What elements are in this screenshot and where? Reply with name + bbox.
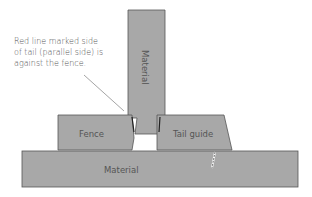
annotation-line-3: against the fence.	[14, 58, 124, 69]
bottom-material-label: Material	[104, 165, 139, 175]
annotation-line-1: Red line marked side	[14, 36, 124, 47]
top-material-label: Material	[140, 50, 150, 85]
fence-label: Fence	[79, 129, 104, 139]
annotation-line-2: of tail (parallel side) is	[14, 47, 124, 58]
dovetail-jig-diagram: Material Fence Tail guide Material	[0, 0, 312, 197]
bottom-material-piece: Material	[22, 151, 298, 187]
annotation-text: Red line marked side of tail (parallel s…	[14, 36, 124, 69]
fence-block: Fence	[58, 115, 134, 150]
tail-guide-label: Tail guide	[172, 129, 213, 139]
annotation-leader-line	[84, 75, 124, 111]
tail-guide-block: Tail guide	[157, 115, 232, 150]
